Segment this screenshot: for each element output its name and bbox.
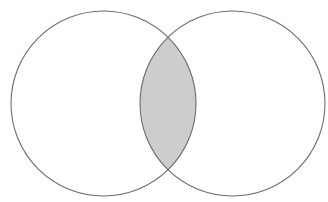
venn-diagram [0, 0, 328, 202]
